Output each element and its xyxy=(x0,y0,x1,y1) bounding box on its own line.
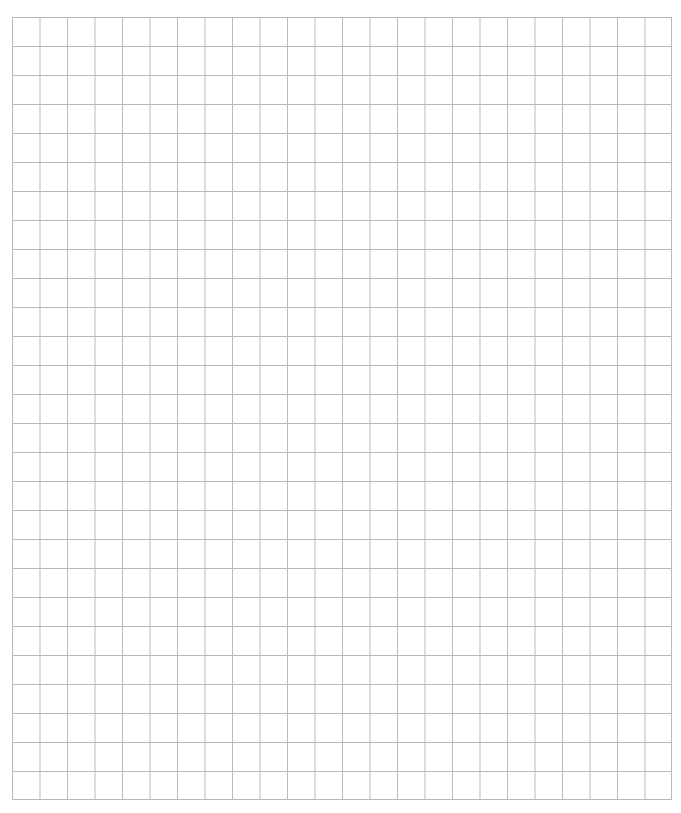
graph-paper-grid xyxy=(12,17,672,800)
